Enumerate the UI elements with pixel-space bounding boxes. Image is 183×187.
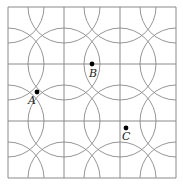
circle-arc [0, 142, 44, 187]
geometry-figure: ABC [0, 0, 183, 187]
point-c-label: C [122, 130, 131, 143]
point-b-label: B [88, 67, 97, 80]
point-a-label: A [27, 94, 36, 107]
circle-arc [140, 142, 183, 187]
circle-arc [0, 0, 44, 43]
circle-arc [140, 0, 183, 43]
point-b-dot [90, 62, 95, 67]
